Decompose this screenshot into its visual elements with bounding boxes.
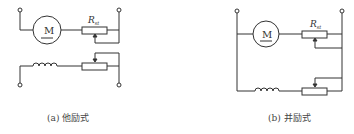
diagram-a (18, 8, 121, 87)
terminal-icon (117, 83, 121, 87)
resistor-label-a: Rst (87, 15, 100, 26)
terminal-icon (340, 9, 344, 13)
caption-a: (a) 他励式 (47, 111, 89, 124)
rheostat-icon (302, 88, 327, 95)
motor-label-b: M (262, 29, 272, 40)
terminal-icon (117, 8, 121, 12)
terminal-icon (235, 9, 239, 13)
rheostat-icon (82, 27, 107, 34)
diagram-b (235, 9, 344, 95)
inductor-icon (255, 88, 279, 91)
rheostat-icon (82, 63, 107, 70)
resistor-label-b: Rst (309, 19, 322, 30)
rheostat-icon (302, 31, 327, 38)
terminal-icon (18, 8, 22, 12)
caption-b: (b) 并励式 (268, 111, 311, 124)
terminal-icon (18, 83, 22, 87)
inductor-icon (33, 63, 57, 66)
motor-label-a: M (44, 25, 54, 36)
